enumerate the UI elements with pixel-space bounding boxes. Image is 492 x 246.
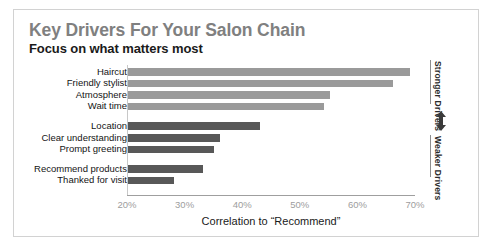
bar [128,134,220,142]
bar [128,80,393,88]
category-label: Haircut [97,67,127,77]
x-axis-tick-label: 70% [405,199,424,210]
x-axis-tick-label: 20% [117,199,136,210]
x-axis-tick-label: 50% [290,199,309,210]
x-axis-title: Correlation to “Recommend” [127,215,415,228]
scan-artifact-sliver [0,0,492,7]
x-axis-tick-label: 30% [175,199,194,210]
bar [128,146,214,154]
category-label: Wait time [88,101,127,111]
category-label: Recommend products [34,164,127,174]
driver-strength-annotation: Stronger Drivers Weaker Drivers [427,58,473,198]
bar [128,177,174,185]
bar [128,165,203,173]
double-arrow-icon [434,111,448,131]
bar [128,103,324,111]
category-label: Clear understanding [41,133,127,143]
stronger-drivers-rule [430,60,431,104]
bar [128,68,410,76]
x-axis-tick-label: 60% [348,199,367,210]
bar [128,91,330,99]
category-label: Atmosphere [76,90,127,100]
category-label: Friendly stylist [67,78,127,88]
chart-card: Key Drivers For Your Salon Chain Focus o… [13,9,479,237]
category-label: Thanked for visit [57,175,127,185]
x-axis-tick-label: 40% [233,199,252,210]
category-label: Location [91,121,127,131]
weaker-drivers-rule [430,135,431,177]
weaker-drivers-label: Weaker Drivers [433,136,443,201]
bar [128,122,260,130]
x-axis-line [127,195,415,196]
category-label: Prompt greeting [59,144,127,154]
screenshot-root: Key Drivers For Your Salon Chain Focus o… [0,0,492,246]
